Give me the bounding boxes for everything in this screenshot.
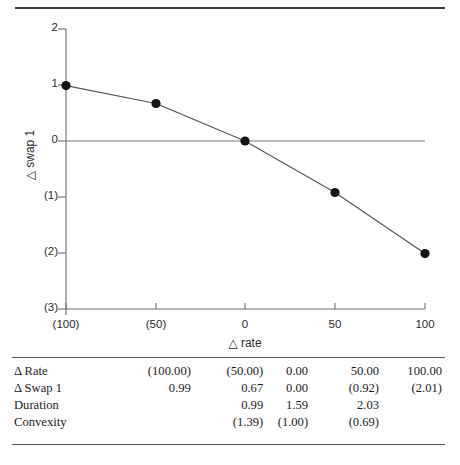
cell-convexity-5: [379, 414, 445, 431]
cell-duration-4: 2.03: [308, 397, 379, 414]
x-tick-label-zero: 0: [210, 318, 280, 330]
line-chart: 2 1 0 (1) (2) (3) (100) (50) 0 50 100 △ …: [0, 0, 460, 355]
y-tick-label-neg2: (2): [12, 245, 58, 257]
cell-delta-rate-1: (100.00): [125, 363, 191, 380]
data-point-minus100: [61, 81, 70, 90]
data-point-zero: [240, 136, 249, 145]
table-row: Convexity (1.39) (1.00) (0.69): [12, 414, 445, 431]
x-tick-label-plus100: 100: [390, 318, 460, 330]
cell-delta-rate-4: 50.00: [308, 363, 379, 380]
cell-convexity-2: (1.39): [191, 414, 263, 431]
y-tick-label-2: 2: [12, 21, 58, 33]
table-row: Δ Swap 1 0.99 0.67 0.00 (0.92) (2.01): [12, 380, 445, 397]
cell-duration-3: 1.59: [263, 397, 308, 414]
row-label-delta-rate: Δ Rate: [12, 363, 125, 380]
data-point-plus100: [420, 249, 429, 258]
table-top-rule: [12, 357, 445, 358]
x-axis-title: △ rate: [175, 336, 315, 350]
x-tick-label-minus50: (50): [121, 318, 191, 330]
y-tick-label-neg3: (3): [12, 301, 58, 313]
data-table: Δ Rate (100.00) (50.00) 0.00 50.00 100.0…: [12, 363, 445, 431]
cell-duration-1: [125, 397, 191, 414]
y-axis-ticks: [58, 29, 66, 309]
y-axis-title: △ swap 1: [23, 95, 37, 215]
table-row: Duration 0.99 1.59 2.03: [12, 397, 445, 414]
figure-page: 2 1 0 (1) (2) (3) (100) (50) 0 50 100 △ …: [0, 0, 460, 465]
cell-delta-rate-3: 0.00: [263, 363, 308, 380]
cell-delta-swap-1-5: (2.01): [379, 380, 445, 397]
row-label-duration: Duration: [12, 397, 125, 414]
cell-convexity-1: [125, 414, 191, 431]
cell-duration-2: 0.99: [191, 397, 263, 414]
data-point-plus50: [330, 188, 339, 197]
data-line-delta-swap-1: [66, 86, 425, 254]
x-tick-label-plus50: 50: [300, 318, 370, 330]
data-point-markers: [61, 81, 429, 258]
cell-delta-swap-1-1: 0.99: [125, 380, 191, 397]
data-point-minus50: [151, 99, 160, 108]
cell-delta-rate-2: (50.00): [191, 363, 263, 380]
cell-duration-5: [379, 397, 445, 414]
cell-delta-swap-1-4: (0.92): [308, 380, 379, 397]
table-bottom-rule: [12, 444, 445, 445]
chart-plot-svg: [0, 0, 460, 355]
cell-convexity-4: (0.69): [308, 414, 379, 431]
cell-delta-rate-5: 100.00: [379, 363, 445, 380]
cell-delta-swap-1-3: 0.00: [263, 380, 308, 397]
x-tick-label-minus100: (100): [31, 318, 101, 330]
table-row: Δ Rate (100.00) (50.00) 0.00 50.00 100.0…: [12, 363, 445, 380]
cell-delta-swap-1-2: 0.67: [191, 380, 263, 397]
cell-convexity-3: (1.00): [263, 414, 308, 431]
row-label-convexity: Convexity: [12, 414, 125, 431]
y-tick-label-1: 1: [12, 77, 58, 89]
row-label-delta-swap-1: Δ Swap 1: [12, 380, 125, 397]
